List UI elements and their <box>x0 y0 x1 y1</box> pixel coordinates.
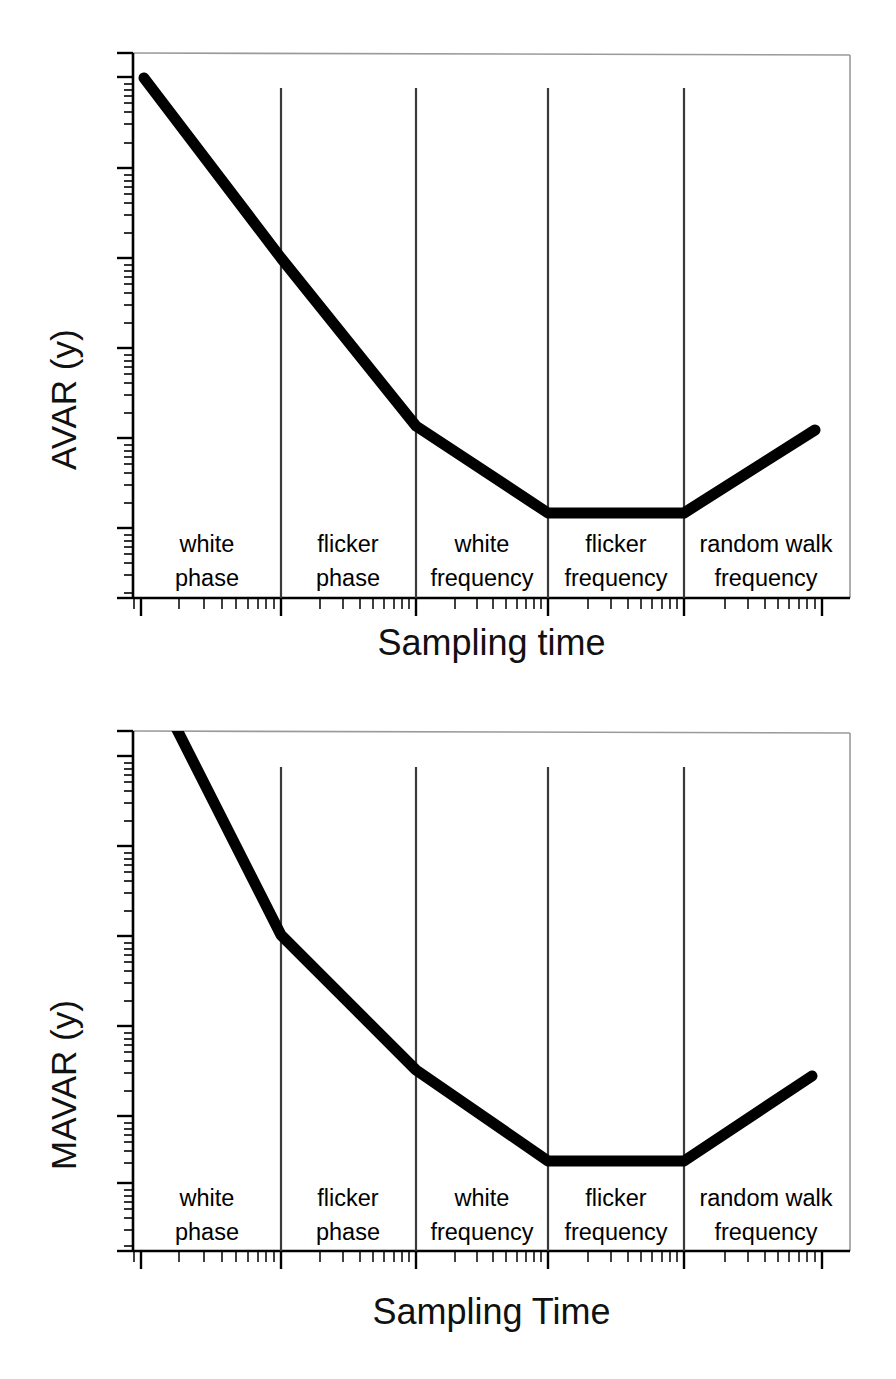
noise-type-figure: white phase flicker phase white frequenc… <box>0 0 896 1379</box>
mavar-region-4-line1: random walk <box>699 1185 832 1211</box>
mavar-plot-svg: white phase flicker phase white frequenc… <box>0 690 896 1379</box>
mavar-region-2-line1: white <box>454 1185 510 1211</box>
mavar-region-0-line1: white <box>179 1185 235 1211</box>
avar-x-axis-title: Sampling time <box>133 622 850 664</box>
mavar-x-axis-title: Sampling Time <box>133 1291 850 1333</box>
mavar-region-3-line2: frequency <box>564 1219 667 1245</box>
avar-x-axis-ticks <box>134 598 822 616</box>
avar-region-labels: white phase flicker phase white frequenc… <box>175 531 833 591</box>
mavar-sigma-tau-curve <box>162 700 812 1161</box>
mavar-region-1-line2: phase <box>316 1219 380 1245</box>
avar-region-0-line2: phase <box>175 565 239 591</box>
avar-region-dividers <box>281 88 684 598</box>
mavar-y-axis-ticks <box>117 731 133 1251</box>
avar-y-axis-ticks <box>117 53 133 598</box>
mavar-y-axis-title: MAVAR (y) <box>44 1000 84 1170</box>
mavar-x-axis-ticks <box>134 1251 822 1269</box>
avar-region-0-line1: white <box>179 531 235 557</box>
mavar-region-0-line2: phase <box>175 1219 239 1245</box>
mavar-region-dividers <box>281 767 684 1251</box>
avar-region-3-line2: frequency <box>564 565 667 591</box>
chart-panel-avar: white phase flicker phase white frequenc… <box>0 0 896 690</box>
avar-sigma-tau-curve <box>144 78 815 513</box>
avar-region-1-line2: phase <box>316 565 380 591</box>
avar-plot-frame <box>133 53 850 598</box>
avar-plot-svg: white phase flicker phase white frequenc… <box>0 0 896 690</box>
mavar-region-labels: white phase flicker phase white frequenc… <box>175 1185 833 1245</box>
avar-region-2-line1: white <box>454 531 510 557</box>
avar-region-4-line2: frequency <box>714 565 817 591</box>
mavar-region-2-line2: frequency <box>430 1219 533 1245</box>
mavar-region-4-line2: frequency <box>714 1219 817 1245</box>
mavar-region-3-line1: flicker <box>585 1185 647 1211</box>
mavar-plot-frame <box>133 731 850 1251</box>
avar-region-3-line1: flicker <box>585 531 647 557</box>
chart-panel-mavar: white phase flicker phase white frequenc… <box>0 690 896 1379</box>
avar-region-2-line2: frequency <box>430 565 533 591</box>
avar-y-axis-title: AVAR (y) <box>44 329 84 470</box>
avar-region-4-line1: random walk <box>699 531 832 557</box>
mavar-region-1-line1: flicker <box>317 1185 379 1211</box>
avar-region-1-line1: flicker <box>317 531 379 557</box>
